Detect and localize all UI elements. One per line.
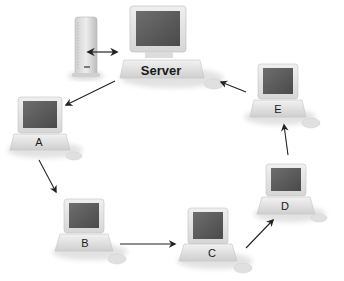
computer-e: E xyxy=(244,64,320,128)
tower-device xyxy=(68,17,104,80)
computer-d-label: D xyxy=(281,200,289,212)
computer-b-label: B xyxy=(81,237,88,249)
computer-d: D xyxy=(254,164,327,222)
network-diagram: Server A B C D xyxy=(0,0,344,281)
arrow-server-to-a xyxy=(66,81,115,105)
computer-c: C xyxy=(177,208,253,273)
computer-b: B xyxy=(52,199,128,264)
arrow-e-to-server xyxy=(221,82,246,92)
server-label: Server xyxy=(141,63,181,78)
arrow-c-to-d xyxy=(246,220,273,248)
arrow-d-to-e xyxy=(284,125,288,155)
computer-e-label: E xyxy=(274,103,281,115)
server-computer: Server xyxy=(120,6,224,89)
arrow-a-to-b xyxy=(39,160,56,192)
computer-c-label: C xyxy=(208,247,216,259)
computer-a-label: A xyxy=(35,136,43,148)
computer-a: A xyxy=(7,97,83,160)
